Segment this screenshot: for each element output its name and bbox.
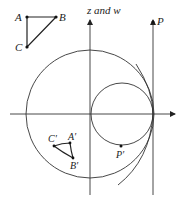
axis-label: z and w [86,4,121,16]
point-p-prime [120,145,123,148]
point-a [25,15,28,18]
label-a: A [14,11,22,23]
label-c: C [15,41,23,53]
label-p-prime: P′ [115,149,125,160]
point-p [151,20,154,23]
image-triangle: C′ A′ B′ [48,131,79,171]
point-b [54,15,57,18]
label-b: B [59,11,66,23]
label-c-prime: C′ [48,133,58,144]
label-b-prime: B′ [70,160,79,171]
point-c [25,45,28,48]
original-triangle: A B C [14,11,66,53]
label-p: P [156,15,164,27]
label-a-prime: A′ [67,131,77,142]
inversion-diagram: z and w A B C C′ A′ B′ P P′ [0,0,183,203]
point-a-prime [69,142,72,145]
tangent-arc-upper [136,64,153,114]
point-b-prime [72,157,75,160]
point-c-prime [53,145,56,148]
